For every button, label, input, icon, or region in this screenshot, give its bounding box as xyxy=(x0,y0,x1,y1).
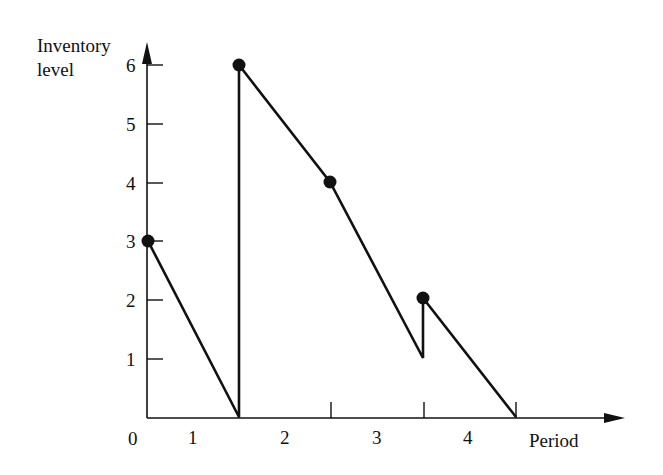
y-tick-label: 1 xyxy=(126,350,136,369)
y-tick-label: 5 xyxy=(126,115,136,134)
y-tick-label: 3 xyxy=(126,232,136,251)
x-axis-label: Period xyxy=(529,431,579,450)
y-tick-label: 2 xyxy=(126,291,136,310)
y-axis-arrow-icon xyxy=(142,42,152,64)
inventory-line xyxy=(148,65,516,417)
period-label: 3 xyxy=(372,428,382,447)
data-point xyxy=(417,292,430,305)
period-label: 4 xyxy=(463,428,473,447)
origin-label: 0 xyxy=(128,429,138,448)
period-label: 1 xyxy=(188,428,198,447)
x-ticks xyxy=(239,402,516,418)
x-axis-arrow-icon xyxy=(604,413,625,423)
y-axis-label-line1: Inventory xyxy=(37,34,111,58)
y-ticks xyxy=(147,65,163,359)
y-axis-label: Inventory level xyxy=(37,34,111,82)
period-label: 2 xyxy=(280,428,290,447)
data-point xyxy=(142,235,155,248)
y-axis-label-line2: level xyxy=(37,58,111,82)
data-point xyxy=(233,59,246,72)
data-point xyxy=(324,176,337,189)
y-tick-label: 6 xyxy=(126,56,136,75)
y-tick-label: 4 xyxy=(126,174,136,193)
